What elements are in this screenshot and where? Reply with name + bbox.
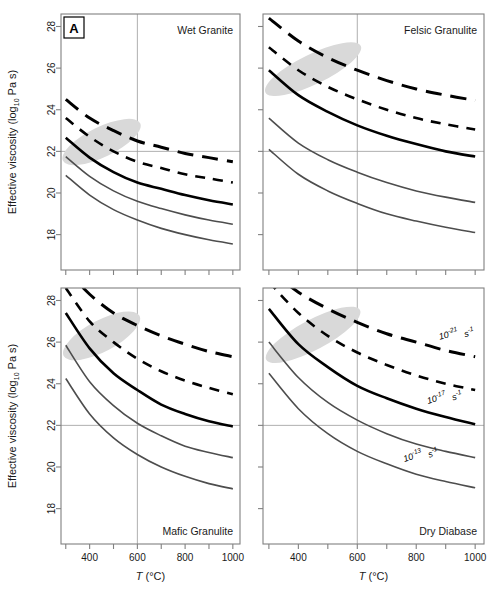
y-tick-label-22: 22	[46, 419, 57, 431]
y-axis-mafic-granulite: 182022242628	[46, 294, 61, 514]
y-axis-wet-granite: 182022242628	[46, 20, 61, 240]
figure-container: Wet Granite182022242628Felsic GranuliteM…	[0, 0, 491, 595]
y-axis-ticks-dry-diabase	[258, 300, 263, 508]
y-tick-label-28: 28	[46, 294, 57, 306]
panel-letter-text: A	[69, 21, 79, 36]
x-tick-label-600: 600	[349, 552, 366, 563]
y-tick-label-22: 22	[46, 145, 57, 157]
viscosity-vs-temperature-figure: Wet Granite182022242628Felsic GranuliteM…	[0, 0, 491, 595]
x-axis-dry-diabase: 4006008001000	[269, 544, 487, 563]
y-tick-label-20: 20	[47, 187, 58, 199]
x-axis-felsic-granulite	[269, 270, 475, 275]
x-tick-label-400: 400	[81, 552, 98, 563]
panel-mafic-granulite: Mafic Granulite1820222426284006008001000	[46, 269, 244, 563]
x-axis-title-left: T (°C)	[136, 570, 165, 582]
y-tick-label-20: 20	[47, 461, 58, 473]
y-axis-title-top: Effective viscosity (log10 Pa s)	[6, 70, 20, 215]
y-tick-label-26: 26	[47, 62, 58, 74]
x-tick-label-600: 600	[129, 552, 146, 563]
x-tick-label-800: 800	[177, 552, 194, 563]
panel-felsic-granulite: Felsic Granulite	[258, 14, 484, 275]
y-tick-label-24: 24	[46, 104, 57, 116]
y-axis-title-bottom: Effective viscosity (log10 Pa s)	[6, 344, 20, 489]
y-tick-label-18: 18	[46, 229, 57, 241]
panel-letter-badge: A	[64, 17, 84, 38]
x-tick-label-800: 800	[408, 552, 425, 563]
panel-wet-granite: Wet Granite182022242628	[46, 14, 240, 275]
y-tick-label-26: 26	[47, 336, 58, 348]
y-axis-ticks-felsic-granulite	[258, 26, 263, 234]
panel-title-dry-diabase: Dry Diabase	[419, 525, 477, 537]
y-tick-label-24: 24	[46, 378, 57, 390]
x-tick-label-400: 400	[290, 552, 307, 563]
panel-dry-diabase: Dry Diabase4006008001000	[258, 269, 487, 563]
y-tick-label-28: 28	[46, 20, 57, 32]
x-tick-label-1000: 1000	[222, 552, 245, 563]
x-axis-wet-granite	[66, 270, 233, 275]
y-tick-label-18: 18	[46, 503, 57, 515]
panel-title-wet-granite: Wet Granite	[177, 24, 233, 36]
x-axis-title-right: T (°C)	[359, 570, 388, 582]
x-tick-label-1000: 1000	[464, 552, 487, 563]
panel-title-felsic-granulite: Felsic Granulite	[404, 24, 477, 36]
x-axis-mafic-granulite: 4006008001000	[66, 544, 245, 563]
panel-title-mafic-granulite: Mafic Granulite	[162, 525, 233, 537]
